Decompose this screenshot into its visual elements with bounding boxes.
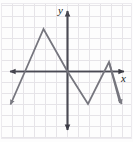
y-axis-label: y [58,5,63,16]
graph-figure: y x [0,0,133,142]
x-axis-label: x [121,73,126,84]
coordinate-plane-svg [0,0,133,142]
function-curve [25,29,120,104]
